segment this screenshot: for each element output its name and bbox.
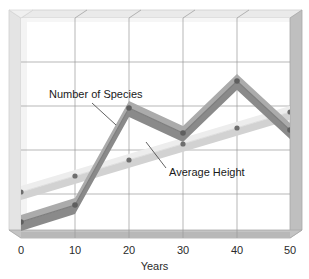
x-axis-title: Years <box>0 260 309 272</box>
frame-top-slab-front <box>21 18 290 22</box>
marker-ns-10 <box>72 202 78 208</box>
x-tick-label-0: 0 <box>8 244 34 256</box>
frame-top-slab <box>21 10 302 18</box>
marker-ns-30 <box>180 130 186 136</box>
marker-ns-20 <box>126 105 132 111</box>
marker-ah-30 <box>180 141 185 146</box>
marker-ah-10 <box>72 173 77 178</box>
frame-right-wall <box>290 10 302 238</box>
frame-left-wall-inner <box>21 18 27 238</box>
marker-ah-20 <box>126 157 131 162</box>
marker-ns-40 <box>234 78 240 84</box>
chart-plot-svg <box>0 0 309 279</box>
series-label-average-height: Average Height <box>169 166 245 178</box>
x-tick-label-30: 30 <box>170 244 196 256</box>
x-tick-label-40: 40 <box>224 244 250 256</box>
x-tick-label-10: 10 <box>62 244 88 256</box>
frame-floor-top <box>21 232 290 238</box>
x-tick-label-20: 20 <box>116 244 142 256</box>
x-tick-label-50: 50 <box>277 244 303 256</box>
series-label-number-of-species: Number of Species <box>49 88 143 100</box>
marker-ah-40 <box>234 125 239 130</box>
frame-left-wall <box>9 10 21 238</box>
chart-figure: Number of Species Average Height 0 10 20… <box>0 0 309 279</box>
